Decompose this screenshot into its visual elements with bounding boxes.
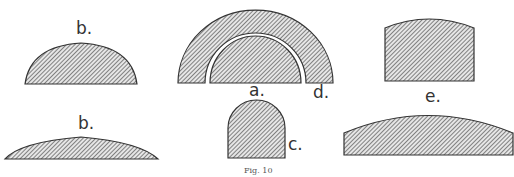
label-e: e. [425,88,441,105]
shape-e-wide-segment [344,116,513,156]
label-a: a. [249,82,265,99]
label-b-top: b. [76,20,92,37]
shape-b-top [25,43,137,84]
shape-b-bottom [5,137,158,159]
label-d: d. [313,84,329,101]
shape-c-block [228,100,285,158]
figure-caption: Fig. 10 [244,166,273,175]
label-b-bottom: b. [78,115,94,132]
label-c: c. [288,136,303,153]
shape-e-block [385,19,474,81]
